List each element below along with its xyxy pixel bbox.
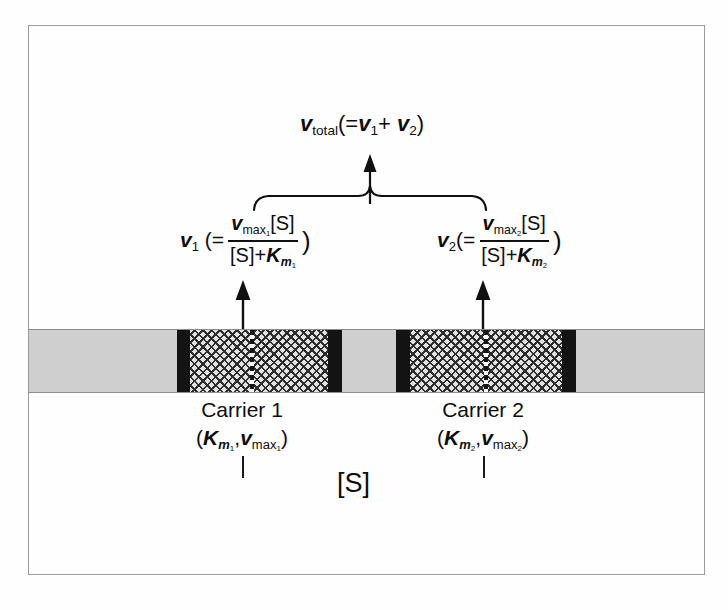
carrier-2-parameters: (Km2,vmax2): [393, 424, 573, 455]
v2-lead: v2(=: [437, 228, 476, 254]
equation-v2: v2(= vmax2[S] [S]+Km2 ): [437, 212, 562, 271]
membrane-segment-lipid: [29, 330, 177, 392]
carrier-1-title: Carrier 1: [152, 398, 332, 423]
v-total-close: ): [417, 111, 424, 136]
arrow-up-icon: [472, 278, 494, 332]
substrate-label: [S]: [337, 470, 370, 497]
brace-svg: [250, 152, 490, 212]
equation-v-total: vtotal(=v1+ v2): [300, 113, 424, 138]
arrow-up-icon: [364, 154, 377, 204]
v2-fraction: vmax2[S] [S]+Km2: [476, 212, 552, 271]
membrane-segment-boundary: [562, 330, 576, 392]
arrow-up-icon: [232, 278, 254, 332]
v2-close-paren: ): [552, 228, 562, 254]
v-total-symbol: v: [300, 111, 312, 136]
carrier-1-caption: Carrier 1 (Km1,vmax1): [152, 398, 332, 455]
v-total-term1: v: [358, 111, 370, 136]
figure-root: vtotal(=v1+ v2) v1 (= vmax1[S] [S]: [0, 0, 728, 610]
carrier-1-parameters: (Km1,vmax1): [152, 424, 332, 455]
v-total-subscript: total: [312, 123, 338, 138]
carrier-2-channel-left: [410, 330, 484, 392]
carrier-2-title: Carrier 2: [393, 398, 573, 423]
v2-denominator: [S]+Km2: [478, 242, 550, 271]
flux-arrow-carrier-1: [232, 278, 254, 332]
carrier-2-tick: [483, 456, 485, 478]
equation-v1: v1 (= vmax1[S] [S]+Km1 ): [180, 212, 311, 271]
v-total-open: (=: [338, 111, 358, 136]
v-total-term1-subscript: 1: [370, 123, 378, 138]
membrane-segment-boundary: [396, 330, 410, 392]
v2-numerator: vmax2[S]: [480, 212, 549, 242]
membrane-segment-boundary: [177, 330, 190, 392]
carrier-1-channel-left: [190, 330, 250, 392]
carrier-2-channel-right: [488, 330, 562, 392]
v-total-term2-subscript: 2: [409, 123, 417, 138]
carrier-1-channel-right: [254, 330, 328, 392]
membrane-segment-lipid: [576, 330, 704, 392]
carrier-1-tick: [242, 456, 244, 478]
v1-numerator: vmax1[S]: [228, 212, 297, 242]
membrane-segment-lipid: [342, 330, 396, 392]
v-total-plus: +: [378, 111, 397, 136]
v1-close-paren: ): [301, 228, 311, 254]
v1-lead: v1 (=: [180, 228, 225, 254]
v1-fraction: vmax1[S] [S]+Km1: [225, 212, 301, 271]
membrane-segment-boundary: [328, 330, 342, 392]
membrane-band: [29, 329, 704, 393]
carrier-2-caption: Carrier 2 (Km2,vmax2): [393, 398, 573, 455]
brace-and-total-arrow: [250, 152, 490, 212]
v-total-term2: v: [397, 111, 409, 136]
flux-arrow-carrier-2: [472, 278, 494, 332]
v1-denominator: [S]+Km1: [227, 242, 299, 271]
